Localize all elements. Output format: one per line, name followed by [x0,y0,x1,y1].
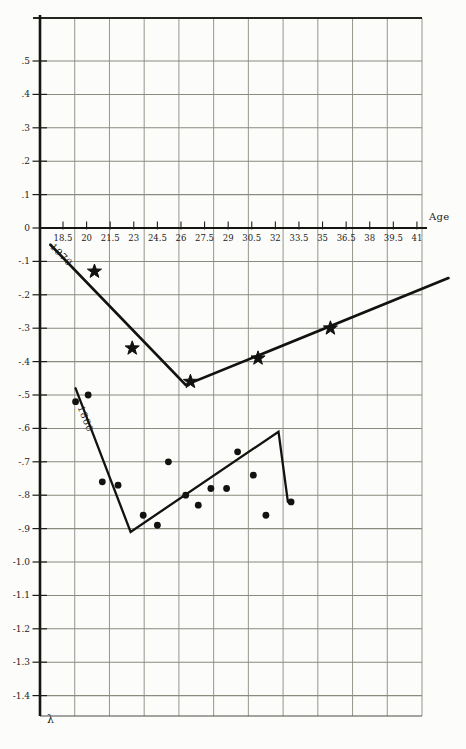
y-tick-label: .4 [21,89,30,99]
x-tick-label: 27.5 [195,233,214,243]
y-tick-label: -1.4 [13,691,31,701]
x-tick-label: 32 [270,233,281,243]
dot-marker-1860 [115,482,122,489]
y-tick-label: -1.1 [13,590,30,600]
x-tick-label: 23 [128,233,139,243]
x-tick-label: 24.5 [148,233,167,243]
x-tick-label: 33.5 [289,233,308,243]
y-tick-label: -1.3 [13,657,31,667]
dot-marker-1860 [288,498,295,505]
y-tick-label: -1.0 [13,557,31,567]
y-tick-label: -.6 [18,423,30,433]
y-tick-label: 0 [24,223,30,233]
y-tick-label: .5 [21,56,30,66]
y-tick-label: -.1 [18,256,30,266]
y-tick-label: .3 [21,123,30,133]
dot-marker-1860 [250,472,257,479]
y-tick-label: -1.2 [13,624,30,634]
x-tick-label: 29 [223,233,234,243]
star-marker-1970 [87,264,101,277]
scanned-chart-page: .5.4.3.2.10-.1-.2-.3-.4-.5-.6-.7-.8-.9-1… [0,0,466,749]
dot-marker-1860 [140,512,147,519]
dot-marker-1860 [182,492,189,499]
y-tick-label: -.3 [18,323,30,333]
x-tick-label: 35 [317,233,328,243]
y-axis-unit-label: λ [47,713,54,726]
x-tick-label: 26 [176,233,187,243]
dot-marker-1860 [223,485,230,492]
dot-marker-1860 [234,448,241,455]
dot-marker-1860 [207,485,214,492]
y-tick-label: -.9 [18,524,30,534]
dot-marker-1860 [85,392,92,399]
dot-marker-1860 [195,502,202,509]
x-tick-label: 36.5 [337,233,356,243]
x-tick-label: 41 [412,233,423,243]
y-tick-label: .1 [21,190,30,200]
trend-line-1970 [50,245,448,385]
dot-marker-1860 [99,478,106,485]
x-tick-label: 38 [364,233,375,243]
y-tick-label: -.4 [18,357,30,367]
y-tick-label: .2 [21,156,30,166]
x-tick-label: 20 [81,233,92,243]
star-marker-1970 [125,341,139,354]
x-tick-label: 30.5 [242,233,261,243]
y-tick-label: -.2 [18,290,30,300]
x-axis-title: Age [429,211,449,222]
dot-marker-1860 [72,398,79,405]
dot-marker-1860 [154,522,161,529]
dot-marker-1860 [165,458,172,465]
dot-marker-1860 [263,512,270,519]
y-tick-label: -.7 [18,457,30,467]
x-tick-label: 39.5 [384,233,403,243]
y-tick-label: -.8 [18,490,30,500]
trend-line-1860 [76,388,288,532]
x-tick-label: 21.5 [101,233,120,243]
y-tick-label: -.5 [18,390,30,400]
age-vs-lambda-chart: .5.4.3.2.10-.1-.2-.3-.4-.5-.6-.7-.8-.9-1… [0,0,466,749]
